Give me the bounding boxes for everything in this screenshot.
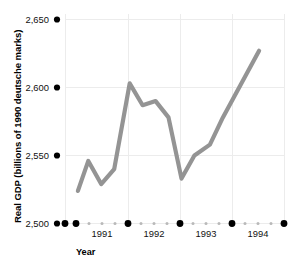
y-tick-label-2650: 2,650 [26,14,49,25]
x-tick-label-1991: 1991 [92,228,113,239]
gdp-line-chart: Real GDP (billions of 1990 deutsche mark… [0,0,301,267]
y-axis-tick-dots [54,16,60,226]
y-axis-title: Real GDP (billions of 1990 deutsche mark… [12,30,23,223]
x-axis-title: Year [76,247,96,257]
y-tick-label-2600: 2,600 [26,82,49,93]
x-tick-label-1994: 1994 [248,228,269,239]
y-tick-label-2550: 2,550 [26,150,49,161]
chart-canvas: Real GDP (billions of 1990 deutsche mark… [0,0,301,267]
plot-area-background [65,14,285,223]
x-tick-label-1992: 1992 [144,228,165,239]
x-tick-label-1993: 1993 [196,228,217,239]
y-tick-label-2500: 2,500 [26,218,49,229]
